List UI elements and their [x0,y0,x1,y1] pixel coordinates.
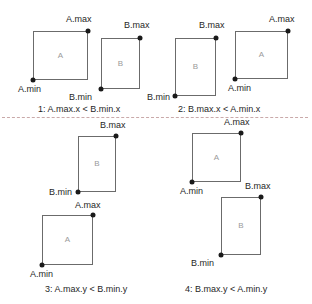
case-1-rect-b-label: B [102,60,139,68]
case-4-point-b-max-label: B.max [245,182,271,191]
case-4-caption: 4: B.max.y < A.min.y [185,285,267,294]
case-4-point-b-max-dot [259,195,264,200]
case-1-point-b-max-dot [138,36,143,41]
case-4-rect-b: B [221,197,261,255]
case-3-point-a-min-label: A.min [30,270,53,279]
case-4-point-a-max-label: A.max [224,118,250,127]
case-1-point-a-min-dot [31,78,36,83]
case-2-point-b-min-label: B.min [147,93,170,102]
case-2-rect-b: B [175,38,216,96]
case-3-point-a-max-dot [91,213,96,218]
case-1-point-a-max-label: A.max [66,15,92,24]
case-3-rect-a: A [42,215,93,265]
case-3-point-a-max-label: A.max [75,201,101,210]
case-4-point-a-min-dot [190,180,195,185]
case-3-point-a-min-dot [40,263,45,268]
case-1-rect-a: A [33,31,88,80]
case-2-point-b-min-dot [173,94,178,99]
case-4-rect-b-label: B [222,222,260,230]
case-2-point-a-max-label: A.max [269,15,295,24]
case-2-point-a-min-label: A.min [228,84,251,93]
case-1-rect-b: B [101,38,140,89]
case-3-caption: 3: A.max.y < B.min.y [45,285,127,294]
case-2-caption: 2: B.max.x < A.min.x [178,105,260,114]
case-3-rect-a-label: A [43,236,92,244]
case-2-rect-a: A [235,31,288,79]
case-2-point-a-min-dot [233,77,238,82]
case-1-point-a-min-label: A.min [18,85,41,94]
separation-cases-figure: A B A.max A.min B.max B.min 1: A.max.x <… [0,0,312,304]
case-1-point-b-max-label: B.max [124,21,150,30]
section-divider [2,117,308,118]
case-4-rect-a: A [192,133,241,182]
case-1-rect-a-label: A [34,52,87,60]
case-3-point-b-max-dot [114,134,119,139]
case-2-point-a-max-dot [286,29,291,34]
case-3-point-b-max-label: B.max [100,121,126,130]
case-1-point-b-min-label: B.min [69,93,92,102]
case-3-rect-b: B [78,136,116,192]
case-3-point-b-min-label: B.min [49,188,72,197]
case-2-rect-a-label: A [236,51,287,59]
case-4-point-a-min-label: A.min [180,187,203,196]
case-4-point-b-min-label: B.min [191,259,214,268]
case-2-point-b-max-label: B.max [199,21,225,30]
case-3-point-b-min-dot [76,190,81,195]
case-4-rect-a-label: A [193,154,240,162]
case-3-rect-b-label: B [79,160,115,168]
case-1-point-b-min-dot [99,87,104,92]
case-1-caption: 1: A.max.x < B.min.x [38,105,120,114]
case-2-point-b-max-dot [214,36,219,41]
case-1-point-a-max-dot [86,29,91,34]
case-4-point-b-min-dot [219,253,224,258]
case-2-rect-b-label: B [176,63,215,71]
case-4-point-a-max-dot [239,131,244,136]
